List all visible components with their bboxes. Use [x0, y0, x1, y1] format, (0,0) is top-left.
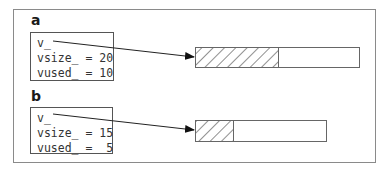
- diagram-graphics: [0, 0, 391, 174]
- panel-b-pointer-arrow: [53, 114, 194, 130]
- panel-a-pointer-arrow: [53, 41, 194, 57]
- used-region: [196, 48, 279, 68]
- panel-a-array: [196, 48, 360, 68]
- used-region: [196, 121, 234, 142]
- panel-b-array: [196, 121, 327, 142]
